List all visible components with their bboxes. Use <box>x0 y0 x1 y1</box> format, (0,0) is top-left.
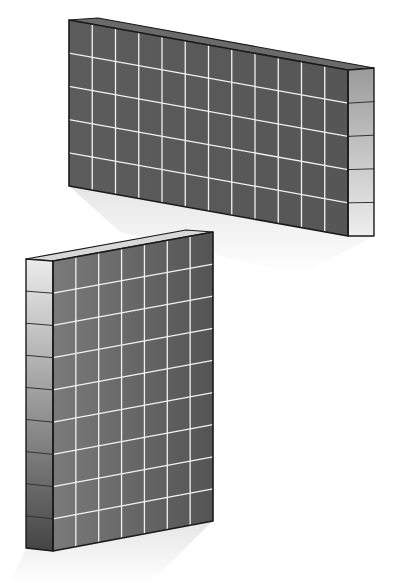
side-face <box>348 68 374 236</box>
landscape-solar-panel <box>69 18 374 275</box>
portrait-solar-panel <box>10 230 213 583</box>
side-face <box>26 259 53 551</box>
front-face <box>53 232 213 551</box>
panel-side-edge <box>26 259 53 551</box>
panel-front-face <box>53 232 213 551</box>
solar-panels-diagram <box>0 0 400 583</box>
panel-side-edge <box>348 68 374 236</box>
